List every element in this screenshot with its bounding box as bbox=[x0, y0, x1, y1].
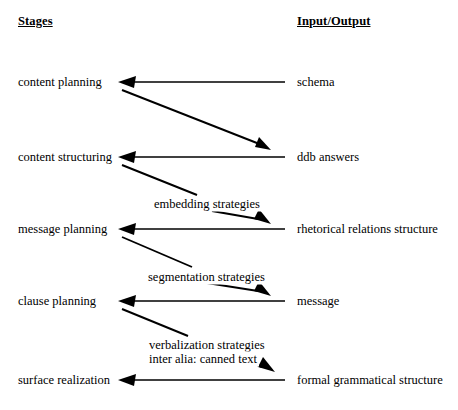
arrow-io-to-message-planning bbox=[118, 223, 285, 235]
transition-label-segmentation-strategies: segmentation strategies bbox=[146, 270, 267, 285]
arrow-io-to-content-structuring bbox=[118, 151, 285, 163]
arrow-content-planning-to-ddb-answers bbox=[122, 90, 271, 150]
transition-label-embedding-strategies: embedding strategies bbox=[152, 197, 262, 212]
stage-label-surface-realization: surface realization bbox=[18, 373, 110, 388]
io-label-schema: schema bbox=[297, 75, 334, 90]
io-label-message: message bbox=[297, 294, 339, 309]
arrow-io-to-content-planning bbox=[118, 76, 285, 88]
stage-label-content-planning: content planning bbox=[18, 75, 102, 90]
io-label-formal-grammatical-structure: formal grammatical structure bbox=[297, 373, 443, 388]
arrow-io-to-clause-planning bbox=[118, 295, 285, 307]
stage-label-message-planning: message planning bbox=[18, 222, 107, 237]
io-label-ddb-answers: ddb answers bbox=[297, 150, 359, 165]
stage-label-content-structuring: content structuring bbox=[18, 150, 112, 165]
arrow-content-structuring-to-rhetorical-relations bbox=[122, 165, 271, 224]
diagram-canvas: Stages Input/Output content planning con… bbox=[0, 0, 458, 410]
transition-label-verbalization-strategies: verbalization strategies bbox=[147, 338, 267, 353]
arrow-io-to-surface-realization bbox=[118, 374, 285, 386]
column-header-stages: Stages bbox=[18, 14, 53, 29]
column-header-input-output: Input/Output bbox=[297, 14, 370, 29]
stage-label-clause-planning: clause planning bbox=[18, 294, 96, 309]
transition-label-inter-alia-canned-text: inter alia: canned text bbox=[147, 352, 259, 367]
io-label-rhetorical-relations-structure: rhetorical relations structure bbox=[297, 222, 438, 237]
arrow-message-planning-to-message bbox=[122, 237, 271, 296]
